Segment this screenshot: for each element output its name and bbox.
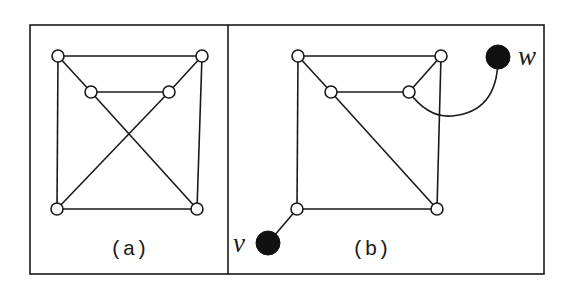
edge-b-tl-bl	[297, 56, 298, 209]
graph-figure: (a) w v (b)	[0, 0, 577, 293]
edge-b-il-br	[331, 92, 437, 209]
edge-b-tr-ir	[409, 56, 441, 92]
node-b-bl	[291, 203, 303, 215]
node-b-il	[325, 86, 337, 98]
panel-b-label: (b)	[352, 238, 390, 261]
edge-b-tr-br	[437, 56, 441, 209]
node-w	[486, 45, 510, 69]
node-v	[256, 231, 280, 255]
node-a-il	[85, 86, 97, 98]
edge-b-tl-il	[298, 56, 331, 92]
node-b-ir	[403, 86, 415, 98]
node-a-ir	[163, 86, 175, 98]
node-b-tl	[292, 50, 304, 62]
vertex-label-v: v	[233, 228, 245, 258]
panel-a-label: (a)	[110, 238, 148, 261]
node-b-tr	[435, 50, 447, 62]
edge-a-tl-il	[58, 56, 91, 92]
panel-a-edges	[57, 56, 202, 209]
edge-a-il-br	[91, 92, 197, 209]
node-a-tr	[196, 50, 208, 62]
edge-a-tr-ir	[169, 56, 202, 92]
edge-a-ir-bl	[57, 92, 169, 209]
panel-b-edges	[268, 56, 498, 243]
node-a-bl	[51, 203, 63, 215]
edge-b-ir-w-curve	[409, 60, 498, 116]
node-a-br	[191, 203, 203, 215]
node-a-tl	[52, 50, 64, 62]
vertex-label-w: w	[518, 41, 536, 71]
node-b-br	[431, 203, 443, 215]
edge-a-tl-bl	[57, 56, 58, 209]
edge-a-tr-br	[197, 56, 202, 209]
figure-frame	[30, 25, 544, 274]
